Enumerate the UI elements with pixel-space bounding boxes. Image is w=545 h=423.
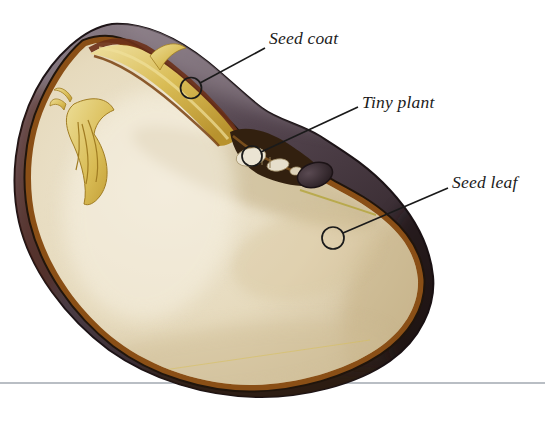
seed-illustration	[0, 0, 545, 423]
seed-coat-label: Seed coat	[269, 28, 338, 48]
seed-diagram: Seed coat Tiny plant Seed leaf	[0, 0, 545, 423]
seed-leaf-label: Seed leaf	[452, 172, 517, 192]
tiny-plant-label: Tiny plant	[362, 92, 435, 112]
